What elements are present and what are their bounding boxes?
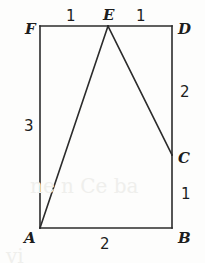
segment-A-E [40,26,108,228]
vertex-label-A: A [24,231,36,246]
measure-CB: 1 [181,187,191,202]
vertex-label-E: E [103,8,114,23]
measure-AB: 2 [100,237,110,252]
vertex-label-C: C [178,151,190,166]
segment-E-C [108,26,172,155]
measure-DC: 2 [180,85,190,100]
measure-ED: 1 [136,9,146,24]
geometry-figure: FEDCBA112123ne n Ce bavi [0,0,205,263]
vertex-label-D: D [178,22,191,37]
measure-AF: 3 [24,119,34,134]
vertex-label-F: F [25,22,36,37]
measure-FE: 1 [66,9,76,24]
vertex-label-B: B [178,231,191,246]
